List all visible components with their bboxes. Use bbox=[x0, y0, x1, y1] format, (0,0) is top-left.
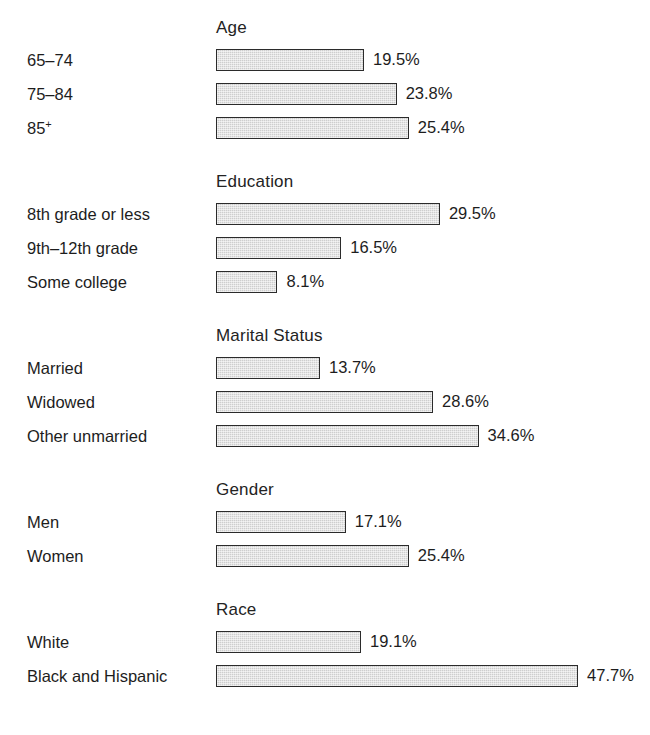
bar-wrapper bbox=[216, 511, 346, 533]
bar bbox=[216, 665, 578, 687]
bar-value-label: 25.4% bbox=[418, 116, 465, 138]
bar-value-label: 16.5% bbox=[350, 236, 397, 258]
bar bbox=[216, 83, 397, 105]
bar-value-label: 47.7% bbox=[587, 664, 634, 686]
bar-value-label: 25.4% bbox=[418, 544, 465, 566]
bar bbox=[216, 425, 479, 447]
bar bbox=[216, 511, 346, 533]
category-label: Black and Hispanic bbox=[27, 664, 167, 688]
bar-wrapper bbox=[216, 425, 479, 447]
bar-wrapper bbox=[216, 117, 409, 139]
bar bbox=[216, 271, 277, 293]
bar-value-label: 29.5% bbox=[449, 202, 496, 224]
group-heading: Marital Status bbox=[216, 326, 323, 346]
category-label: Men bbox=[27, 510, 59, 534]
category-label: White bbox=[27, 630, 69, 654]
bar bbox=[216, 357, 320, 379]
bar bbox=[216, 203, 440, 225]
bar bbox=[216, 237, 341, 259]
bar-value-label: 8.1% bbox=[286, 270, 324, 292]
bar-wrapper bbox=[216, 271, 277, 293]
bar-wrapper bbox=[216, 545, 409, 567]
bar-value-label: 19.1% bbox=[370, 630, 417, 652]
group-heading: Age bbox=[216, 18, 247, 38]
category-label: Other unmarried bbox=[27, 424, 147, 448]
bar-wrapper bbox=[216, 665, 578, 687]
category-label: 9th–12th grade bbox=[27, 236, 138, 260]
bar-wrapper bbox=[216, 83, 397, 105]
category-label: Married bbox=[27, 356, 83, 380]
bar bbox=[216, 117, 409, 139]
bar-wrapper bbox=[216, 391, 433, 413]
bar bbox=[216, 545, 409, 567]
bar bbox=[216, 631, 361, 653]
bar-wrapper bbox=[216, 631, 361, 653]
bar-value-label: 23.8% bbox=[406, 82, 453, 104]
bar-wrapper bbox=[216, 357, 320, 379]
category-label: 65–74 bbox=[27, 48, 73, 72]
group-heading: Gender bbox=[216, 480, 274, 500]
bar bbox=[216, 391, 433, 413]
bar-value-label: 19.5% bbox=[373, 48, 420, 70]
category-label: 75–84 bbox=[27, 82, 73, 106]
category-label: 85+ bbox=[27, 116, 52, 140]
bar-wrapper bbox=[216, 49, 364, 71]
category-label: Women bbox=[27, 544, 84, 568]
category-label: 8th grade or less bbox=[27, 202, 150, 226]
bar bbox=[216, 49, 364, 71]
bar-value-label: 13.7% bbox=[329, 356, 376, 378]
category-label: Widowed bbox=[27, 390, 95, 414]
bar-wrapper bbox=[216, 203, 440, 225]
bar-wrapper bbox=[216, 237, 341, 259]
category-label: Some college bbox=[27, 270, 127, 294]
grouped-bar-chart: Age65–7419.5%75–8423.8%85+25.4%Education… bbox=[0, 0, 650, 735]
bar-value-label: 28.6% bbox=[442, 390, 489, 412]
group-heading: Race bbox=[216, 600, 257, 620]
bar-value-label: 34.6% bbox=[488, 424, 535, 446]
bar-value-label: 17.1% bbox=[355, 510, 402, 532]
group-heading: Education bbox=[216, 172, 293, 192]
